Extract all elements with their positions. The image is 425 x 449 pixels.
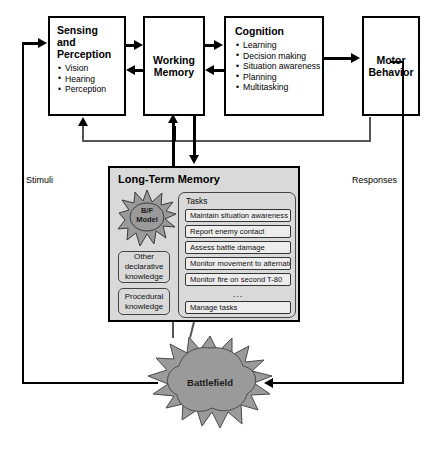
motor-title-line-1: Motor bbox=[369, 54, 414, 66]
arrowhead-working-memory-to-sensing bbox=[126, 65, 135, 75]
connector-ltm-to-working-memory bbox=[172, 120, 175, 166]
box-procedural-knowledge: Procedural knowledge bbox=[118, 288, 170, 315]
cognition-bullet-1: Learning bbox=[235, 40, 322, 51]
cognition-bullet-4: Planning bbox=[235, 72, 322, 83]
declarative-line-2: declarative bbox=[125, 262, 164, 272]
declarative-line-1: Other bbox=[125, 252, 164, 262]
feedback-bus-horizontal bbox=[82, 140, 371, 142]
sensing-title-line-2: and bbox=[57, 36, 124, 48]
arrowhead-responses-to-battlefield bbox=[264, 378, 273, 388]
feedback-bus-riser-sensing bbox=[82, 126, 84, 141]
outer-loop-left-horizontal bbox=[22, 382, 158, 384]
feedback-bus-riser-motor bbox=[369, 117, 371, 141]
declarative-line-3: knowledge bbox=[125, 272, 164, 282]
outer-loop-right-horizontal bbox=[272, 382, 404, 384]
battlefield-burst: Battlefield bbox=[148, 336, 272, 428]
arrowhead-ltm-to-working-memory bbox=[168, 114, 178, 123]
connector-working-memory-to-ltm bbox=[193, 116, 196, 158]
task-item-3[interactable]: Assess battle damage bbox=[185, 241, 291, 254]
connector-cognition-to-working-memory bbox=[214, 69, 224, 72]
panel-long-term-memory: Long-Term Memory B/F Model Other declara… bbox=[108, 166, 300, 322]
sensing-bullet-1: Vision bbox=[57, 63, 124, 74]
box-cognition: Cognition Learning Decision making Situa… bbox=[224, 16, 324, 116]
tasks-ellipsis: ... bbox=[185, 289, 291, 301]
sensing-bullet-list: Vision Hearing Perception bbox=[57, 63, 124, 95]
task-item-2[interactable]: Report enemy contact bbox=[185, 225, 291, 238]
connector-working-memory-to-sensing bbox=[134, 69, 145, 72]
arrowhead-bus-to-sensing bbox=[78, 117, 88, 126]
long-term-memory-title: Long-Term Memory bbox=[118, 173, 220, 185]
box-other-declarative-knowledge: Other declarative knowledge bbox=[118, 251, 170, 283]
working-memory-title-line-2: Memory bbox=[153, 66, 195, 78]
arrowhead-cognition-to-working-memory bbox=[205, 65, 214, 75]
outer-loop-right-vertical bbox=[402, 61, 404, 383]
connector-cognition-to-motor bbox=[324, 57, 352, 60]
diagram-canvas: Sensing and Perception Vision Hearing Pe… bbox=[0, 0, 425, 449]
arrowhead-cognition-to-motor bbox=[351, 53, 360, 63]
arrowhead-sensing-to-working-memory bbox=[134, 40, 143, 50]
sensing-title-line-1: Sensing bbox=[57, 24, 124, 36]
tasks-panel-label: Tasks bbox=[186, 196, 207, 206]
outer-loop-left-vertical bbox=[22, 42, 24, 384]
task-item-5[interactable]: Monitor fire on second T-80 bbox=[185, 273, 291, 286]
sensing-bullet-2: Hearing bbox=[57, 74, 124, 85]
box-motor-behavior: Motor Behavior bbox=[362, 16, 420, 116]
cognition-title: Cognition bbox=[235, 25, 322, 37]
motor-title-line-2: Behavior bbox=[369, 66, 414, 78]
task-item-1[interactable]: Maintain situation awareness bbox=[185, 209, 291, 222]
arrowhead-working-memory-to-cognition bbox=[214, 40, 223, 50]
bf-model-burst: B/F Model bbox=[118, 190, 176, 246]
cognition-bullet-list: Learning Decision making Situation aware… bbox=[235, 40, 322, 93]
arrowhead-stimuli-to-sensing bbox=[38, 38, 47, 48]
working-memory-title-line-1: Working bbox=[153, 54, 195, 66]
cognition-bullet-5: Multitasking bbox=[235, 82, 322, 93]
cognition-bullet-3: Situation awareness bbox=[235, 61, 322, 72]
task-item-4[interactable]: Monitor movement to alternate bbox=[185, 257, 291, 270]
box-working-memory: Working Memory bbox=[143, 16, 205, 116]
sensing-title-line-3: Perception bbox=[57, 48, 124, 60]
procedural-line-2: knowledge bbox=[125, 302, 164, 312]
label-responses: Responses bbox=[352, 175, 397, 185]
burst-shape-icon bbox=[118, 190, 176, 246]
sensing-bullet-3: Perception bbox=[57, 84, 124, 95]
battlefield-burst-shape-icon bbox=[148, 336, 272, 428]
panel-tasks: Tasks Maintain situation awareness Repor… bbox=[178, 192, 296, 318]
label-stimuli: Stimuli bbox=[26, 175, 53, 185]
arrowhead-working-memory-to-ltm bbox=[189, 155, 199, 164]
task-item-manage-tasks[interactable]: Manage tasks bbox=[185, 301, 291, 314]
cognition-bullet-2: Decision making bbox=[235, 51, 322, 62]
procedural-line-1: Procedural bbox=[125, 292, 164, 302]
box-sensing-and-perception: Sensing and Perception Vision Hearing Pe… bbox=[48, 16, 126, 116]
